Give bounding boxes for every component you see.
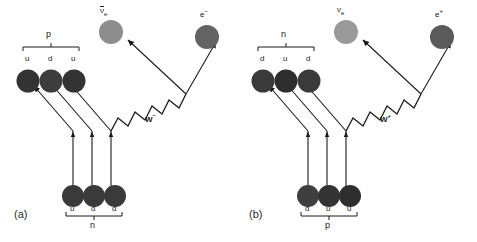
panel-b-top-quark-2: d [306,55,310,63]
panel-b-top-quark-1: u [283,55,287,63]
panel-b-top-quark-0: d [260,55,264,63]
panel-b-graphics [0,0,477,242]
figure-canvas: p u d u u d d n W− νe e− (a) [0,0,477,242]
panel-b-w-boson-label: W+ [380,113,391,124]
panel-b-bottom-quark-1: u [326,205,330,213]
panel-b-positron-label: e+ [435,8,443,19]
panel-b-bottom-quark-2: u [347,205,351,213]
panel-b-bottom-quark-0: d [305,205,309,213]
panel-b-bottom-nucleon-label: p [325,221,330,230]
panel-b-top-nucleon-label: n [281,30,286,39]
panel-b-neutrino-label: νe [337,6,344,16]
panel-b-caption: (b) [249,209,262,220]
